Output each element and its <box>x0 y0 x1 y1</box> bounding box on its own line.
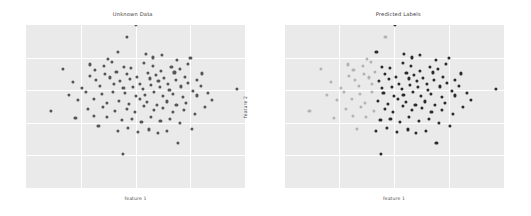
scatter-point <box>413 74 416 77</box>
scatter-point <box>176 142 179 145</box>
scatter-point <box>180 85 183 88</box>
scatter-point <box>389 117 392 120</box>
scatter-point <box>417 86 420 89</box>
scatter-point <box>376 99 379 102</box>
scatter-point <box>130 117 133 120</box>
scatter-point <box>182 108 185 111</box>
scatter-point <box>165 100 168 103</box>
scatter-point <box>120 118 123 121</box>
scatter-point <box>203 106 206 109</box>
gridline-vertical <box>394 25 395 188</box>
scatter-point <box>355 127 358 130</box>
scatter-point <box>152 109 155 112</box>
scatter-point <box>153 90 156 93</box>
scatter-point <box>361 64 364 67</box>
scatter-point <box>67 93 70 96</box>
scatter-point <box>148 128 151 131</box>
panel-predicted-labels: Predicted Labels feature 1 feature 2 <box>266 0 531 216</box>
scatter-point <box>154 74 157 77</box>
scatter-point <box>128 102 131 105</box>
scatter-point <box>407 77 410 80</box>
scatter-point <box>155 103 158 106</box>
scatter-point <box>61 67 64 70</box>
panel-title-unknown-data: Unknown Data <box>0 11 266 18</box>
scatter-point <box>431 71 434 74</box>
scatter-point <box>134 94 137 97</box>
gridline-vertical <box>81 25 82 188</box>
scatter-point <box>364 116 367 119</box>
scatter-point <box>101 105 104 108</box>
scatter-point <box>211 98 214 101</box>
scatter-point <box>450 89 453 92</box>
scatter-point <box>162 106 165 109</box>
scatter-point <box>404 101 407 104</box>
scatter-point <box>132 85 135 88</box>
scatter-point <box>109 76 112 79</box>
scatter-point <box>419 53 422 56</box>
scatter-point <box>122 66 125 69</box>
scatter-point <box>86 108 89 111</box>
scatter-point <box>142 61 145 64</box>
scatter-point <box>201 72 204 75</box>
gridline-vertical <box>339 25 340 188</box>
gridline-vertical <box>136 25 137 188</box>
scatter-point <box>111 61 114 64</box>
scatter-point <box>181 95 184 98</box>
scatter-point <box>149 77 152 80</box>
scatter-point <box>151 64 154 67</box>
gridline-vertical <box>449 25 450 188</box>
scatter-point <box>433 104 436 107</box>
gridline-horizontal <box>285 123 504 124</box>
scatter-point <box>116 129 119 132</box>
scatter-point <box>330 81 333 84</box>
scatter-point <box>387 77 390 80</box>
scatter-point <box>382 91 385 94</box>
scatter-point <box>112 82 115 85</box>
scatter-point <box>433 78 436 81</box>
scatter-point <box>344 108 347 111</box>
scatter-point <box>424 130 427 133</box>
scatter-point <box>308 109 311 112</box>
scatter-point <box>410 64 413 67</box>
scatter-point <box>146 101 149 104</box>
scatter-point <box>351 97 354 100</box>
scatter-point <box>427 118 430 121</box>
scatter-point <box>377 80 380 83</box>
scatter-point <box>420 95 423 98</box>
scatter-point <box>103 64 106 67</box>
scatter-point <box>118 99 121 102</box>
scatter-point <box>171 93 174 96</box>
scatter-point <box>185 101 188 104</box>
scatter-point <box>429 93 432 96</box>
scatter-point <box>89 74 92 77</box>
scatter-point <box>115 70 118 73</box>
scatter-point <box>364 102 367 105</box>
scatter-point <box>171 111 174 114</box>
gridline-horizontal <box>26 123 245 124</box>
scatter-point <box>195 79 198 82</box>
scatter-point <box>95 78 98 81</box>
scatter-point <box>166 130 169 133</box>
gridline-horizontal <box>285 155 504 156</box>
scatter-point <box>372 110 375 113</box>
scatter-point <box>395 131 398 134</box>
scatter-point <box>390 85 393 88</box>
scatter-point <box>381 66 384 69</box>
scatter-point <box>122 86 125 89</box>
scatter-point <box>447 56 450 59</box>
scatter-point <box>320 67 323 70</box>
scatter-point <box>369 61 372 64</box>
scatter-point <box>397 82 400 85</box>
scatter-point <box>332 117 335 120</box>
scatter-point <box>74 117 77 120</box>
scatter-point <box>183 75 186 78</box>
scatter-point <box>458 84 461 87</box>
scatter-point <box>161 95 164 98</box>
scatter-point <box>403 52 406 55</box>
scatter-point <box>127 126 130 129</box>
scatter-point <box>469 98 472 101</box>
scatter-point <box>430 111 433 114</box>
panel-unknown-data: Unknown Data feature 1 feature 2 <box>0 0 266 216</box>
scatter-point <box>411 109 414 112</box>
scatter-point <box>190 127 193 130</box>
